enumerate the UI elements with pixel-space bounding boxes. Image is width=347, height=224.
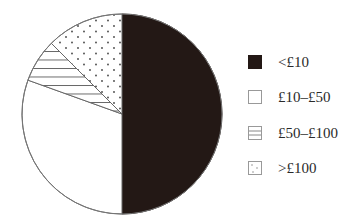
legend-item-50-100: £50–£100: [248, 125, 338, 141]
legend-swatch-solid: [248, 55, 262, 69]
legend-swatch-hatched: [248, 126, 262, 140]
pie-chart: [0, 0, 240, 224]
legend-label: £10–£50: [278, 89, 331, 105]
legend-label: £50–£100: [278, 125, 338, 141]
legend-label: <£10: [278, 54, 309, 70]
legend-item-under-10: <£10: [248, 54, 309, 70]
legend-label: >£100: [278, 160, 316, 176]
slice-under-10: [122, 14, 222, 214]
legend-swatch-white: [248, 90, 262, 104]
legend-item-10-50: £10–£50: [248, 89, 331, 105]
pie-slices: [22, 14, 222, 214]
legend-swatch-dotted: [248, 161, 262, 175]
legend-item-over-100: >£100: [248, 160, 316, 176]
